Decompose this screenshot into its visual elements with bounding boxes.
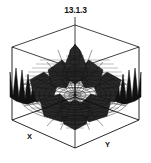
axis-label-z: Z xyxy=(133,94,138,102)
axis-label-y: Y xyxy=(105,141,110,149)
surface-mesh xyxy=(10,44,141,136)
axis-label-x: X xyxy=(27,133,32,141)
surface-mesh-hatch xyxy=(20,48,130,128)
figure-root: 13.1.3 xyxy=(0,0,151,163)
surface-plot-canvas xyxy=(0,0,151,163)
